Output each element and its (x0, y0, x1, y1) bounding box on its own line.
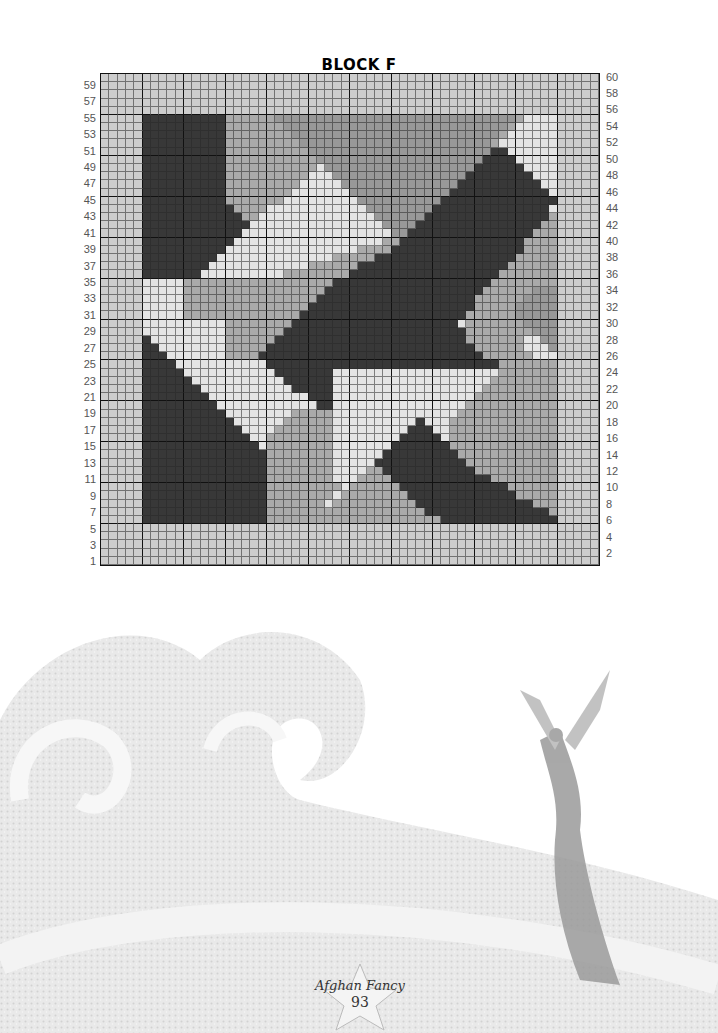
grid-cell (400, 229, 408, 237)
grid-cell (425, 139, 433, 147)
grid-cell (566, 360, 574, 368)
grid-cell (425, 491, 433, 499)
grid-cell (566, 459, 574, 467)
grid-cell (541, 491, 549, 499)
grid-cell (167, 311, 175, 319)
grid-cell (566, 99, 574, 107)
grid-cell (450, 189, 458, 197)
grid-cell (101, 189, 109, 197)
grid-cell (143, 82, 151, 90)
grid-cell (541, 229, 549, 237)
grid-cell (300, 426, 308, 434)
grid-cell (483, 352, 491, 360)
grid-cell (533, 131, 541, 139)
grid-cell (433, 262, 441, 270)
grid-cell (582, 524, 590, 532)
grid-cell (383, 328, 391, 336)
grid-cell (533, 410, 541, 418)
grid-cell (342, 434, 350, 442)
grid-cell (450, 115, 458, 123)
grid-cell (333, 303, 341, 311)
grid-cell (582, 549, 590, 557)
grid-cell (325, 508, 333, 516)
grid-cell (192, 229, 200, 237)
grid-cell (392, 295, 400, 303)
grid-cell (159, 459, 167, 467)
grid-cell (524, 540, 532, 548)
grid-cell (109, 205, 117, 213)
grid-cell (217, 442, 225, 450)
grid-cell (392, 238, 400, 246)
grid-cell (541, 320, 549, 328)
grid-cell (176, 532, 184, 540)
grid-cell (524, 475, 532, 483)
grid-cell (516, 352, 524, 360)
grid-cell (192, 82, 200, 90)
grid-cell (558, 238, 566, 246)
grid-cell (259, 336, 267, 344)
grid-cell (566, 434, 574, 442)
grid-cell (466, 164, 474, 172)
grid-cell (325, 238, 333, 246)
grid-cell (383, 483, 391, 491)
grid-cell (433, 549, 441, 557)
footer-brand: Afghan Fancy (300, 978, 420, 993)
grid-cell (342, 320, 350, 328)
grid-cell (416, 483, 424, 491)
grid-cell (209, 164, 217, 172)
grid-cell (325, 254, 333, 262)
grid-cell (582, 262, 590, 270)
grid-cell (358, 336, 366, 344)
grid-cell (284, 516, 292, 524)
grid-cell (184, 246, 192, 254)
grid-cell (118, 172, 126, 180)
grid-cell (591, 410, 599, 418)
grid-cell (101, 418, 109, 426)
grid-cell (226, 410, 234, 418)
grid-cell (533, 221, 541, 229)
grid-cell (342, 557, 350, 565)
grid-cell (134, 385, 142, 393)
grid-cell (433, 254, 441, 262)
grid-cell (400, 90, 408, 98)
grid-cell (192, 369, 200, 377)
grid-cell (118, 74, 126, 82)
row-label: 9 (90, 491, 96, 502)
grid-cell (151, 238, 159, 246)
grid-cell (508, 352, 516, 360)
grid-cell (126, 516, 134, 524)
grid-cell (499, 516, 507, 524)
grid-cell (342, 115, 350, 123)
grid-cell (309, 328, 317, 336)
grid-cell (475, 229, 483, 237)
grid-cell (367, 303, 375, 311)
grid-cell (201, 172, 209, 180)
grid-cell (541, 131, 549, 139)
grid-cell (167, 303, 175, 311)
grid-cell (333, 205, 341, 213)
grid-cell (267, 442, 275, 450)
grid-cell (408, 557, 416, 565)
grid-cell (508, 442, 516, 450)
grid-cell (508, 500, 516, 508)
grid-cell (582, 401, 590, 409)
grid-cell (259, 557, 267, 565)
row-label: 14 (606, 450, 618, 461)
grid-cell (259, 295, 267, 303)
grid-cell (109, 393, 117, 401)
grid-cell (333, 189, 341, 197)
grid-cell (450, 107, 458, 115)
grid-cell (284, 131, 292, 139)
grid-cell (201, 500, 209, 508)
grid-cell (508, 516, 516, 524)
grid-cell (234, 540, 242, 548)
grid-cell (508, 148, 516, 156)
grid-cell (192, 221, 200, 229)
grid-cell (549, 238, 557, 246)
grid-cell (416, 500, 424, 508)
grid-cell (109, 287, 117, 295)
grid-cell (475, 156, 483, 164)
grid-cell (582, 377, 590, 385)
grid-cell (317, 303, 325, 311)
grid-cell (184, 221, 192, 229)
